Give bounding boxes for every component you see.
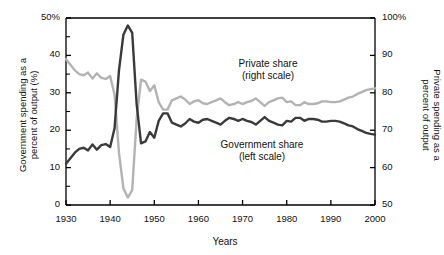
plot-area bbox=[0, 0, 444, 255]
government-share-line bbox=[66, 25, 375, 163]
private-share-line bbox=[66, 59, 375, 197]
axis-lines bbox=[66, 18, 375, 205]
tick-marks bbox=[66, 18, 375, 205]
chart-figure: Government spending as a percent of outp… bbox=[0, 0, 444, 255]
